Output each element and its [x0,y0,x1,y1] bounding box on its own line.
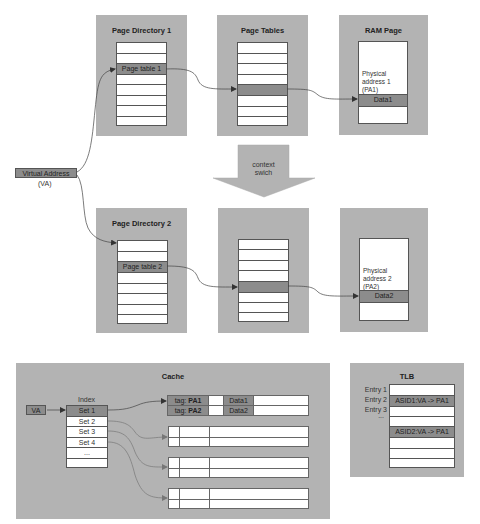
connector-arrows [0,0,480,524]
